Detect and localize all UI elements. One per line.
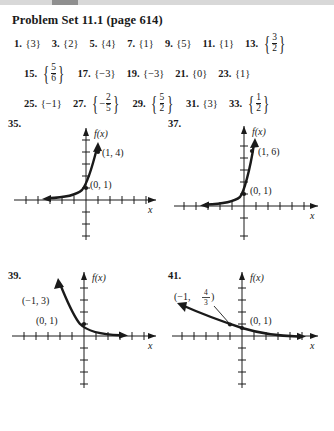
answer-number: 17. [78,68,91,79]
brace-left: { [91,95,97,112]
graph-35-ylabel: f(x) [94,128,109,140]
answer-number: 23. [218,68,231,79]
answer-value: {52} [149,93,175,113]
graph-37-plot: f(x) x (1, 6) (0, 1) [168,118,334,243]
answer-number: 1. [14,38,22,49]
page-top-bar-notch [52,0,78,5]
graph-35-xlabel: x [147,204,153,215]
fraction: 52 [160,93,165,113]
answer-number: 19. [126,68,139,79]
answer-value: −3 [94,68,115,79]
answer-item: 29.{52} [132,93,175,113]
graph-37: 37. [168,118,334,243]
fraction-denominator: 2 [272,43,277,54]
answer-value: 4 [101,38,116,49]
brace-right: } [113,95,119,112]
fraction-denominator: 5 [106,103,111,114]
graph-35-point-1-4 [96,150,100,154]
answer-number: 25. [24,98,37,109]
answer-item: 33.{12} [229,93,272,113]
answer-item: 3.2 [52,38,79,49]
graph-41-label-prefix: (−1, [174,291,190,303]
answer-number: 15. [24,68,37,79]
answer-value: {32} [262,33,288,53]
answer-number: 3. [52,38,60,49]
answer-row: 25.−127.{−25}29.{52}31.333.{12} [0,88,334,118]
graph-35-point-label-1: (1, 4) [102,147,124,159]
graph-41-point-0-1 [240,326,244,330]
answer-value: {−25} [90,93,122,113]
graph-37-point-1-6 [250,149,254,153]
answer-number: 33. [229,98,242,109]
answer-item: 27.{−25} [73,93,121,113]
answer-item: 7.1 [127,38,154,49]
answer-number: 11. [203,38,216,49]
answer-value: 3 [203,98,218,109]
answer-row: 15.{56}17.−319.−321.023.1 [0,58,334,88]
answer-number: 7. [127,38,135,49]
graph-41-point-label-2: (0, 1) [250,315,272,327]
brace-right: } [263,95,269,112]
answer-value: {12} [246,93,272,113]
graph-41-xlabel: x [309,340,315,351]
fraction-numerator: 5 [160,93,165,103]
graph-37-ylabel: f(x) [252,126,267,138]
answer-value: −1 [41,98,62,109]
answer-item: 17.−3 [78,68,116,79]
fraction: 32 [272,33,277,53]
graph-39: 39. [8,260,168,390]
graph-41-number: 41. [168,270,181,281]
fraction-numerator: 1 [256,93,261,103]
answer-number: 13. [245,38,258,49]
answer-value: {56} [41,63,67,83]
answer-value: 5 [176,38,191,49]
graph-39-point-0-1 [82,322,86,326]
fraction-denominator: 6 [51,73,56,84]
graph-41-label-suffix: ) [211,291,214,303]
answer-value: 1 [219,38,234,49]
fraction-numerator: 2 [106,93,111,103]
graph-39-point-label-2: (0, 1) [36,315,58,327]
answer-item: 13.{32} [245,33,288,53]
fraction: 25 [106,93,111,113]
graph-41: 41. [168,260,334,390]
answer-item: 25.−1 [24,98,62,109]
brace-left: { [247,95,253,112]
answer-value: 0 [192,68,207,79]
fraction: 56 [51,63,56,83]
answer-number: 21. [175,68,188,79]
answer-value: 1 [235,68,250,79]
answer-value: −3 [143,68,164,79]
graph-41-label-denom: 3 [204,298,208,307]
answer-item: 23.1 [218,68,250,79]
graph-41-plot: f(x) x (−1, 4 3 ) (0, 1) [168,260,334,390]
answer-item: 1.3 [14,38,41,49]
graph-37-number: 37. [168,118,181,129]
page-title: Problem Set 11.1 (page 614) [12,13,163,28]
answer-row: 1.33.25.47.19.511.113.{32} [0,28,334,58]
graph-41-ylabel: f(x) [250,272,265,284]
brace-left: { [43,65,49,82]
fraction-sign: − [100,98,106,109]
graph-35: 35. [8,118,168,243]
graph-39-ylabel: f(x) [92,272,107,284]
fraction: 12 [256,93,261,113]
page-top-bar [0,0,334,5]
answer-number: 31. [186,98,199,109]
fraction-denominator: 2 [160,103,165,114]
answer-item: 9.5 [165,38,192,49]
answer-item: 11.1 [203,38,234,49]
graph-35-number: 35. [8,118,21,129]
graph-39-plot: f(x) x (−1, 3) (0, 1) [8,260,168,390]
graph-41-label-numer: 4 [204,288,208,297]
answer-item: 19.−3 [126,68,164,79]
graph-39-number: 39. [8,270,21,281]
fraction-denominator: 2 [256,103,261,114]
brace-right: } [167,95,173,112]
answer-number: 5. [89,38,97,49]
answer-item: 15.{56} [24,63,67,83]
answer-item: 31.3 [186,98,218,109]
brace-left: { [264,35,270,52]
answer-number: 29. [132,98,145,109]
answer-item: 5.4 [89,38,116,49]
